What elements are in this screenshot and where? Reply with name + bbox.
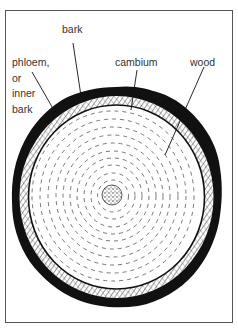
pith xyxy=(102,185,122,205)
bark-leader xyxy=(73,43,81,96)
wood-label: wood xyxy=(190,55,215,71)
phloem-label-line: phloem, xyxy=(12,55,49,71)
bark-label: bark xyxy=(62,22,82,38)
wood xyxy=(29,105,205,289)
phloem-label-line: or xyxy=(12,71,49,87)
phloem-label-line: inner xyxy=(12,86,49,102)
tree-cross-section xyxy=(0,0,238,330)
phloem-label-line: bark xyxy=(12,102,49,118)
cambium-label: cambium xyxy=(115,55,158,71)
phloem-label: phloem, or inner bark xyxy=(12,55,49,117)
